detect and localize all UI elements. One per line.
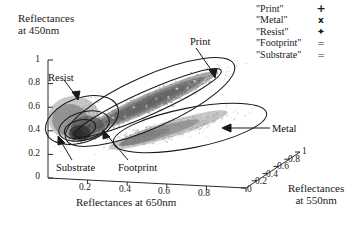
legend-label-resist: "Resist" bbox=[256, 26, 314, 37]
x-tick-0.8: 0.8 bbox=[198, 188, 210, 198]
x-axis-line bbox=[48, 178, 246, 188]
y-tick-0: 0 bbox=[22, 171, 40, 181]
scatter-plot-figure: Reflectances at 450nm Reflectances at 65… bbox=[0, 0, 360, 227]
equals-marker: = bbox=[314, 38, 328, 49]
z-axis-title: Reflectances at 550nm bbox=[288, 182, 344, 207]
y-tick-0.4: 0.4 bbox=[22, 124, 40, 134]
legend-item-print: "Print" + bbox=[256, 3, 328, 14]
y-tick-0.2: 0.2 bbox=[22, 148, 40, 158]
metal-arrowhead bbox=[222, 124, 231, 132]
x-tick-0.2: 0.2 bbox=[79, 182, 91, 192]
x-axis-title: Reflectances at 650nm bbox=[76, 196, 176, 208]
legend-item-substrate: "Substrate" = bbox=[256, 49, 328, 60]
plus-marker: + bbox=[314, 3, 328, 14]
z-tick-1: 1 bbox=[302, 146, 307, 156]
y-tick-0.8: 0.8 bbox=[22, 77, 40, 87]
z-tick-0.8: 0.8 bbox=[288, 154, 300, 164]
annotation-print: Print bbox=[190, 36, 210, 47]
annotation-resist: Resist bbox=[48, 72, 74, 83]
annotation-substrate: Substrate bbox=[56, 162, 95, 173]
z-tick-0: 0 bbox=[247, 184, 252, 194]
legend-label-print: "Print" bbox=[256, 3, 314, 14]
equals-marker: = bbox=[314, 50, 328, 61]
annotation-metal: Metal bbox=[272, 123, 297, 134]
star-marker: ✦ bbox=[314, 26, 328, 37]
legend-item-metal: "Metal" x bbox=[256, 14, 328, 25]
y-axis-title-line1: Reflectances bbox=[18, 12, 74, 24]
x-tick-0.6: 0.6 bbox=[158, 186, 170, 196]
legend-item-resist: "Resist" ✦ bbox=[256, 26, 328, 37]
z-axis-title-line1: Reflectances bbox=[288, 182, 344, 194]
legend-item-footprint: "Footprint" = bbox=[256, 37, 328, 48]
annotation-footprint: Footprint bbox=[118, 162, 157, 173]
y-tick-0.6: 0.6 bbox=[22, 101, 40, 111]
y-axis-title: Reflectances at 450nm bbox=[18, 12, 74, 37]
y-axis-title-line2: at 450nm bbox=[18, 24, 74, 36]
legend-label-substrate: "Substrate" bbox=[256, 49, 314, 60]
x-tick-0.4: 0.4 bbox=[119, 184, 131, 194]
legend-label-metal: "Metal" bbox=[256, 14, 314, 25]
z-axis-title-line2: at 550nm bbox=[288, 194, 344, 206]
legend: "Print" + "Metal" x "Resist" ✦ "Footprin… bbox=[256, 3, 328, 60]
y-tick-1: 1 bbox=[22, 54, 40, 64]
legend-label-footprint: "Footprint" bbox=[256, 37, 314, 48]
